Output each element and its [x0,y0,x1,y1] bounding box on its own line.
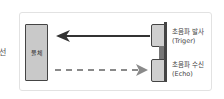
echo-label-text: 초음파 수신 [172,61,204,70]
sensor-connector [159,46,164,59]
sensor-receiver [151,59,165,82]
trigger-arrow-icon [56,30,150,42]
ultrasonic-sensor [151,22,167,82]
trigger-label: 초음파 발사 (Triger) [172,28,204,46]
echo-label: 초음파 수신 (Echo) [172,61,204,79]
echo-label-sub: (Echo) [172,70,204,79]
echo-arrow-icon [55,64,148,76]
trigger-label-sub: (Triger) [172,37,204,46]
trigger-label-text: 초음파 발사 [172,28,204,37]
signal-arrows [0,0,224,99]
sensor-transmitter [151,24,165,47]
